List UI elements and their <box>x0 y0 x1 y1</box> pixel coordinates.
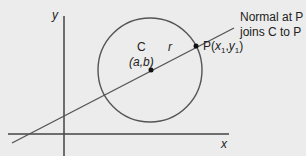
center-coords: (a,b) <box>129 56 154 69</box>
point-p-suffix: ) <box>239 39 243 53</box>
point-p <box>194 44 199 49</box>
y-axis-label: y <box>52 9 58 22</box>
annotation-line-1: Normal at P <box>240 10 303 25</box>
point-p-prefix: P( <box>203 39 215 53</box>
annotation-line-2: joins C to P <box>240 25 303 40</box>
normal-annotation: Normal at P joins C to P <box>240 10 303 40</box>
center-label: C <box>137 41 146 54</box>
point-p-label: P(x1,y1) <box>203 40 243 57</box>
normal-line <box>12 28 234 143</box>
radius-label: r <box>168 41 172 54</box>
x-axis-label: x <box>221 138 227 151</box>
